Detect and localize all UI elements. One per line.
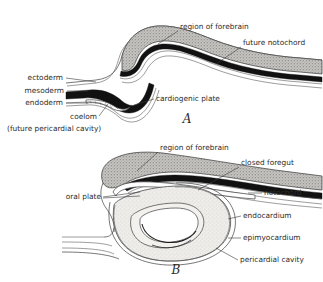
label-pericardial-cavity-b: pericardial cavity <box>240 255 304 264</box>
label-cardiogenic-plate-a: cardiogenic plate <box>156 94 220 103</box>
panel-b: region of forebrain closed foregut oral … <box>62 143 322 277</box>
label-endocardium-b: endocardium <box>243 211 292 220</box>
cardiogenic-plate-mass <box>66 83 154 113</box>
label-notochord-b: notochord <box>264 188 302 197</box>
panel-letter-a: A <box>182 112 192 126</box>
body-wall-sheets-b <box>62 237 119 259</box>
label-future-notochord-a: future notochord <box>243 38 305 47</box>
head-fold-outline-b <box>101 183 114 232</box>
label-closed-foregut-b: closed foregut <box>241 158 294 167</box>
body-wall-fold-b <box>104 228 114 237</box>
label-oral-plate-b: oral plate <box>66 192 102 201</box>
embryology-figure: region of forebrain future notochord ect… <box>0 0 323 282</box>
panel-letter-b: B <box>171 263 181 277</box>
label-mesoderm-a: mesoderm <box>25 86 64 95</box>
label-endoderm-a: endoderm <box>25 98 63 107</box>
label-epimyocardium-b: epimyocardium <box>243 233 301 242</box>
panel-a: region of forebrain future notochord ect… <box>7 22 322 133</box>
label-ectoderm-a: ectoderm <box>28 73 63 82</box>
leader-pericardial-cavity-b <box>216 248 238 260</box>
label-future-pericardial-cavity-a: (future pericardial cavity) <box>7 124 101 133</box>
label-coelom-a: coelom <box>70 112 97 121</box>
label-region-of-forebrain-b: region of forebrain <box>160 143 229 152</box>
leader-coelom-a <box>99 104 108 116</box>
label-region-of-forebrain-a: region of forebrain <box>180 22 249 31</box>
